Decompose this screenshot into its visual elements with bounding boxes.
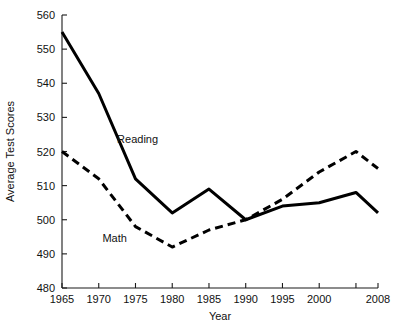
chart-canvas: 560550540530520510500490480 196519701975… <box>0 0 413 324</box>
series-line-reading <box>62 32 378 220</box>
y-tick-label: 540 <box>37 77 55 89</box>
x-axis-tick-labels: 196519701975198019851990199520002008 <box>50 293 390 305</box>
y-tick-label: 550 <box>37 43 55 55</box>
x-tick-label: 1975 <box>123 293 147 305</box>
x-tick-label: 1980 <box>160 293 184 305</box>
y-tick-label: 490 <box>37 248 55 260</box>
x-tick-label: 1985 <box>197 293 221 305</box>
y-tick-label: 510 <box>37 180 55 192</box>
x-axis-tick-marks <box>62 283 378 288</box>
x-tick-label: 1990 <box>233 293 257 305</box>
y-tick-label: 500 <box>37 214 55 226</box>
x-tick-label: 2008 <box>366 293 390 305</box>
y-axis-tick-labels: 560550540530520510500490480 <box>37 9 55 294</box>
line-chart: 560550540530520510500490480 196519701975… <box>0 0 413 324</box>
series-lines <box>62 32 378 247</box>
x-tick-label: 2000 <box>307 293 331 305</box>
y-axis-title: Average Test Scores <box>4 100 16 202</box>
y-tick-label: 530 <box>37 111 55 123</box>
x-tick-label: 1965 <box>50 293 74 305</box>
x-axis-title: Year <box>209 310 232 322</box>
series-label-math: Math <box>102 232 126 244</box>
x-tick-label: 1970 <box>87 293 111 305</box>
y-tick-label: 520 <box>37 146 55 158</box>
series-inline-labels: ReadingMath <box>102 133 158 244</box>
y-tick-label: 560 <box>37 9 55 21</box>
x-tick-label: 1995 <box>270 293 294 305</box>
series-label-reading: Reading <box>117 133 158 145</box>
